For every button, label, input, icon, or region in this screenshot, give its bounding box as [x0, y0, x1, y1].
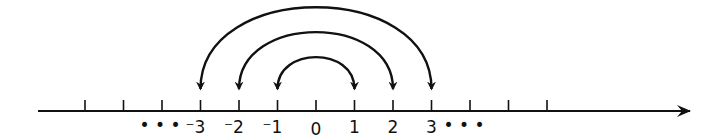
arc-3-to--3: [201, 7, 432, 89]
label--3: ⁻3: [186, 117, 206, 137]
tick-labels: ⁻3⁻2⁻10123: [186, 117, 437, 139]
label--2: ⁻2: [224, 117, 244, 137]
label-0: 0: [311, 119, 322, 139]
arc-2-to--2: [239, 32, 393, 89]
label-2: 2: [388, 117, 399, 137]
label--1: ⁻1: [263, 117, 283, 137]
number-line-diagram: ⁻3⁻2⁻10123 • • • • • •: [0, 0, 711, 140]
tick-marks: [85, 100, 547, 111]
label-1: 1: [349, 117, 360, 137]
ellipsis-left: • • •: [140, 115, 181, 135]
label-3: 3: [426, 117, 437, 137]
opposite-number-arcs: [201, 7, 432, 89]
ellipsis-right: • • •: [444, 115, 485, 135]
arc-1-to--1: [278, 57, 355, 89]
